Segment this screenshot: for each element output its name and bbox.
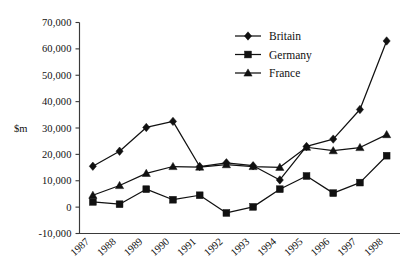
x-axis-tick-label-text: 1987 — [68, 236, 91, 258]
series-germany-square-marker — [143, 186, 150, 193]
x-axis-tick-label-text: 1989 — [122, 236, 145, 258]
x-axis-tick-label: 1991 — [175, 236, 198, 258]
x-axis-tick-label: 1994 — [255, 235, 279, 258]
y-axis-tick-label: 0 — [66, 202, 71, 213]
x-axis-tick-label: 1995 — [282, 236, 305, 258]
x-axis-tick-label-text: 1991 — [175, 236, 198, 258]
x-axis-tick-label-text: 1990 — [148, 236, 171, 258]
x-axis-tick-label-text: 1996 — [309, 236, 332, 258]
y-axis-tick-label: 70,000 — [42, 17, 71, 28]
x-axis-tick-label: 1996 — [309, 236, 332, 258]
series-germany-square-marker — [330, 190, 337, 197]
x-axis-tick-label: 1993 — [228, 236, 251, 258]
x-axis-tick-label-text: 1998 — [362, 236, 385, 258]
series-germany-square-marker — [357, 179, 364, 186]
legend-label-germany: Germany — [269, 49, 312, 62]
y-axis-tick-label: 30,000 — [42, 123, 71, 134]
x-axis-tick-label-text: 1993 — [228, 236, 251, 258]
legend-label-france: France — [269, 67, 300, 79]
series-germany — [89, 152, 390, 216]
legend-britain-diamond-marker — [244, 32, 251, 40]
legend-item-germany[interactable]: Germany — [235, 49, 312, 62]
series-germany-square-marker — [196, 192, 203, 199]
x-axis-tick-label: 1997 — [335, 236, 358, 258]
x-axis-tick-label: 1990 — [148, 236, 171, 258]
series-france-triangle-marker — [115, 181, 123, 188]
y-axis-tick-label: 40,000 — [42, 96, 71, 107]
series-france-triangle-marker — [383, 130, 391, 137]
series-line-britain — [93, 41, 387, 180]
series-britain-diamond-marker — [169, 117, 176, 125]
series-germany-square-marker — [250, 203, 257, 210]
x-axis-tick-label: 1988 — [95, 236, 118, 258]
series-germany-square-marker — [303, 173, 310, 180]
series-britain-diamond-marker — [89, 162, 96, 170]
series-line-france — [93, 135, 387, 196]
y-axis-tick-label: 10,000 — [42, 175, 71, 186]
x-axis-tick-label-text: 1997 — [335, 236, 358, 258]
x-axis-tick-label: 1989 — [122, 236, 145, 258]
y-axis-unit-label: $m — [14, 123, 27, 134]
x-axis-tick-label: 1992 — [202, 236, 225, 258]
x-axis-tick-label-text: 1994 — [255, 235, 279, 258]
line-chart: -10,000010,00020,00030,00040,00050,00060… — [0, 0, 417, 272]
series-germany-square-marker — [89, 198, 96, 205]
legend-item-france[interactable]: France — [235, 67, 300, 79]
legend-germany-square-marker — [245, 51, 252, 58]
x-axis-tick-label: 1998 — [362, 236, 385, 258]
series-britain — [89, 37, 390, 184]
legend-label-britain: Britain — [269, 30, 301, 42]
series-germany-square-marker — [116, 201, 123, 208]
chart-legend: BritainGermanyFrance — [235, 30, 312, 79]
x-axis-tick-label-text: 1995 — [282, 236, 305, 258]
y-axis-tick-label: 20,000 — [42, 149, 71, 160]
y-axis-tick-label: 50,000 — [42, 70, 71, 81]
x-axis-tick-label-text: 1988 — [95, 236, 118, 258]
x-axis-tick-label: 1987 — [68, 236, 91, 258]
chart-container: -10,000010,00020,00030,00040,00050,00060… — [0, 0, 417, 272]
series-germany-square-marker — [223, 210, 230, 217]
legend-item-britain[interactable]: Britain — [235, 30, 301, 42]
series-britain-diamond-marker — [383, 37, 390, 45]
y-axis-tick-label: -10,000 — [38, 228, 71, 239]
series-germany-square-marker — [276, 186, 283, 193]
x-axis-tick-label-text: 1992 — [202, 236, 225, 258]
series-germany-square-marker — [383, 152, 390, 159]
y-axis-tick-label: 60,000 — [42, 43, 71, 54]
series-france-triangle-marker — [356, 143, 364, 150]
series-germany-square-marker — [170, 196, 177, 203]
